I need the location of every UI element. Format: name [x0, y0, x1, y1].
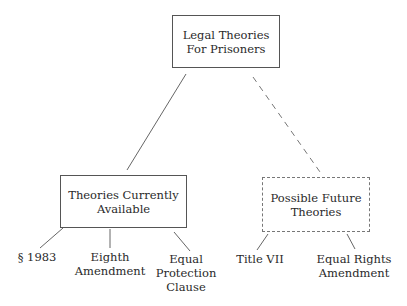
current-theories-node: Theories Currently Available [60, 175, 187, 228]
leaf-equal-protection-clause: Equal Protection Clause [156, 252, 217, 294]
current-label-line2: Available [68, 202, 179, 216]
leaf-section-1983: § 1983 [18, 250, 57, 264]
root-label-line2: For Prisoners [183, 42, 270, 56]
leaf-eighth-amendment: Eighth Amendment [75, 250, 146, 278]
current-label-line1: Theories Currently [68, 188, 179, 202]
leaf-equal-rights-amendment: Equal Rights Amendment [317, 252, 392, 280]
future-label-line1: Possible Future [271, 191, 362, 205]
leaf-title-vii: Title VII [236, 252, 284, 266]
future-theories-node: Possible Future Theories [262, 177, 370, 232]
root-node: Legal Theories For Prisoners [172, 15, 280, 68]
root-label-line1: Legal Theories [183, 28, 270, 42]
future-label-line2: Theories [271, 205, 362, 219]
